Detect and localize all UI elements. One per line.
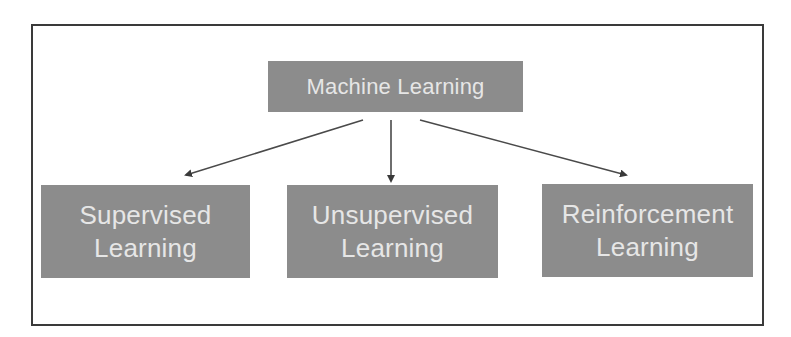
node-reinforcement-learning: Reinforcement Learning xyxy=(542,184,753,277)
node-supervised-line2: Learning xyxy=(94,232,197,265)
node-unsupervised-line2: Learning xyxy=(341,232,444,265)
node-supervised-line1: Supervised xyxy=(79,199,211,232)
node-unsupervised-line1: Unsupervised xyxy=(312,199,473,232)
node-reinforcement-line1: Reinforcement xyxy=(562,198,734,231)
node-reinforcement-line2: Learning xyxy=(596,231,699,264)
node-machine-learning-label: Machine Learning xyxy=(306,73,484,101)
node-supervised-learning: Supervised Learning xyxy=(41,185,250,278)
node-machine-learning: Machine Learning xyxy=(268,61,523,112)
node-unsupervised-learning: Unsupervised Learning xyxy=(287,185,498,278)
